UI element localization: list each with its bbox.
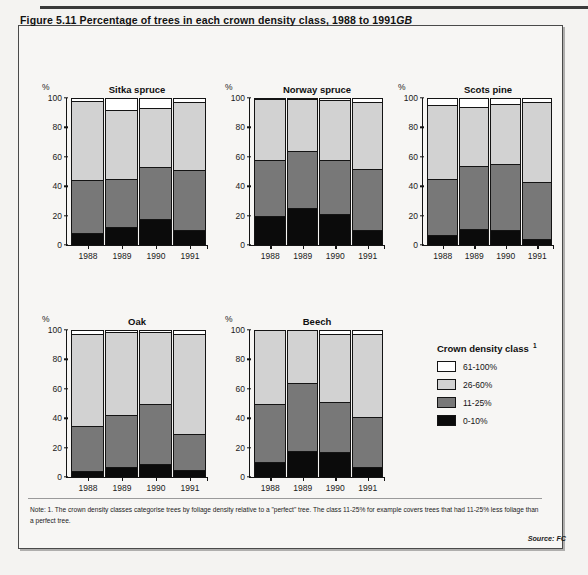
bar-segment-s61	[106, 98, 137, 110]
y-axis-tick: 40	[53, 181, 67, 191]
y-axis-tick: 20	[409, 211, 423, 221]
x-axis-tick	[190, 245, 191, 249]
y-axis-tick: 20	[236, 211, 250, 221]
x-axis-label: 1988	[79, 483, 98, 493]
percent-axis-symbol: %	[42, 314, 50, 324]
x-axis-label: 1990	[147, 483, 166, 493]
bar-segment-s0	[353, 467, 383, 477]
percent-axis-symbol: %	[398, 82, 406, 92]
y-axis-tick: 40	[236, 413, 250, 423]
bar-segment-s26	[428, 105, 457, 179]
stacked-bar	[522, 98, 553, 245]
legend-title-text: Crown density class	[437, 343, 529, 354]
plot-area: 1008060402001988198919901991	[249, 330, 385, 478]
legend-swatch-s26	[437, 379, 456, 390]
x-axis-label: 1989	[113, 251, 132, 261]
bar-segment-s11	[428, 179, 457, 235]
y-axis-tick: 0	[413, 240, 423, 250]
bar-segment-s26	[140, 108, 171, 167]
stacked-bar	[139, 98, 172, 245]
bar-segment-s0	[72, 233, 103, 245]
x-axis-label: 1991	[528, 251, 547, 261]
y-axis-tick: 0	[240, 240, 250, 250]
bar-segment-s26	[140, 332, 171, 404]
legend-item: 0-10%	[437, 415, 567, 426]
legend-swatch-s11	[437, 397, 456, 408]
x-axis-label: 1988	[261, 251, 280, 261]
bar-segment-s11	[353, 169, 383, 231]
y-axis-tick: 80	[409, 122, 423, 132]
y-axis-tick: 100	[231, 325, 250, 335]
legend-swatch-s0	[437, 415, 456, 426]
percent-axis-symbol: %	[225, 82, 233, 92]
plot-area: 1008060402001988198919901991	[422, 98, 554, 246]
bar-segment-s26	[288, 99, 318, 150]
x-axis-tick	[190, 477, 191, 481]
bar-segment-s0	[288, 451, 318, 477]
bar-segment-s26	[320, 334, 350, 402]
x-axis-label: 1991	[181, 251, 200, 261]
stacked-bar	[139, 330, 172, 477]
chart-panel-title: Scots pine	[422, 84, 554, 95]
bar-segment-s11	[140, 167, 171, 218]
legend-rows: 61-100%26-60%11-25%0-10%	[437, 361, 567, 426]
y-axis-tick: 20	[53, 443, 67, 453]
bar-segment-s0	[288, 208, 318, 245]
x-axis-label: 1990	[326, 483, 345, 493]
stacked-bar	[287, 98, 319, 245]
bar-segment-s0	[106, 467, 137, 477]
y-axis-tick: 40	[53, 413, 67, 423]
stacked-bar	[459, 98, 490, 245]
bar-segment-s61	[428, 98, 457, 105]
bar-segment-s26	[72, 101, 103, 180]
x-axis-label: 1991	[358, 251, 377, 261]
bar-segment-s26	[353, 334, 383, 416]
source-label: Source: FC	[528, 534, 566, 543]
stacked-bar	[254, 98, 286, 245]
bar-segment-s11	[255, 160, 285, 216]
bar-segment-s11	[72, 426, 103, 472]
x-axis-tick	[368, 245, 369, 249]
chart-panel-title: Oak	[66, 316, 208, 327]
y-axis-tick: 100	[231, 93, 250, 103]
bar-segment-s26	[255, 99, 285, 159]
bar-segment-s26	[255, 330, 285, 404]
stacked-bar	[105, 330, 138, 477]
y-axis-tick: 0	[57, 472, 67, 482]
y-axis-tick: 40	[409, 181, 423, 191]
x-axis-tick	[270, 477, 271, 481]
bar-segment-s0	[428, 235, 457, 245]
stacked-bar	[427, 98, 458, 245]
bar-segment-s11	[106, 179, 137, 228]
bar-segment-s26	[491, 104, 520, 164]
chart-panel-sitka-spruce: %Sitka spruce100806040200198819891990199…	[66, 98, 208, 246]
bar-segment-s26	[174, 102, 205, 170]
bar-segment-s0	[174, 230, 205, 245]
y-axis-tick: 60	[53, 384, 67, 394]
x-axis-tick	[156, 245, 157, 249]
legend-item: 26-60%	[437, 379, 567, 390]
x-axis-label: 1988	[261, 483, 280, 493]
y-axis-tick: 60	[53, 152, 67, 162]
legend-footnote-marker: 1	[533, 342, 537, 349]
bar-segment-s0	[140, 219, 171, 245]
bar-segment-s11	[523, 182, 552, 239]
legend-swatch-s61	[437, 361, 456, 372]
x-axis-tick	[474, 245, 475, 249]
bar-segment-s11	[255, 404, 285, 463]
x-axis-label: 1990	[496, 251, 515, 261]
y-axis-tick: 60	[236, 384, 250, 394]
bar-segment-s11	[174, 434, 205, 469]
bar-segment-s26	[353, 102, 383, 168]
bar-segment-s11	[288, 151, 318, 208]
percent-axis-symbol: %	[42, 82, 50, 92]
x-axis-tick	[156, 477, 157, 481]
y-axis-tick: 100	[48, 325, 67, 335]
x-axis-tick	[537, 245, 538, 249]
bar-segment-s26	[320, 100, 350, 160]
plot-area: 1008060402001988198919901991	[66, 330, 208, 478]
y-axis-tick: 80	[236, 122, 250, 132]
x-axis-tick-end	[384, 245, 385, 249]
bar-segment-s0	[320, 452, 350, 477]
y-axis-tick: 80	[236, 354, 250, 364]
